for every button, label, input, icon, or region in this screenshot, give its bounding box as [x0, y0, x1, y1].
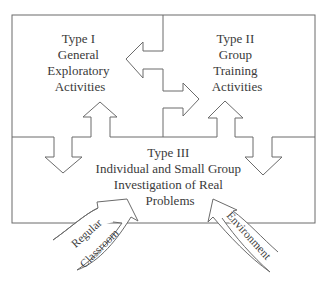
type1-label: Type I General Exploratory Activities: [47, 31, 112, 94]
type3-line-2: Individual and Small Group: [96, 161, 242, 176]
type3-label: Type III Individual and Small Group Inve…: [96, 145, 245, 208]
type3-line-3: Investigation of Real: [114, 177, 223, 192]
type1-type2-connector-arrow: [126, 15, 199, 137]
type1-line-1: Type I: [62, 31, 95, 46]
type2-line-2: Group: [219, 47, 252, 62]
type1-line-2: General: [58, 47, 100, 62]
type3-line-4: Problems: [145, 193, 194, 208]
type2-line-3: Training: [213, 63, 258, 78]
type2-line-1: Type II: [217, 31, 255, 46]
type3-line-1: Type III: [147, 145, 189, 160]
enrichment-triad-diagram: Type I General Exploratory Activities Ty…: [0, 0, 325, 283]
type1-line-4: Activities: [55, 79, 106, 94]
type1-line-3: Exploratory: [47, 63, 110, 78]
type2-line-4: Activities: [212, 79, 263, 94]
type2-label: Type II Group Training Activities: [212, 31, 263, 94]
